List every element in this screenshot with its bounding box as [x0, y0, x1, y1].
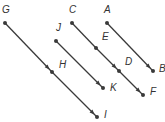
points	[3, 21, 155, 119]
point-j	[54, 39, 58, 43]
point-k	[101, 86, 105, 90]
label-e: E	[102, 31, 109, 42]
point-f	[141, 93, 145, 97]
vector-HI	[52, 72, 97, 117]
label-k: K	[110, 82, 118, 93]
point-b	[151, 69, 155, 73]
point-d	[117, 69, 121, 73]
label-c: C	[69, 4, 77, 15]
point-h	[50, 70, 54, 74]
label-d: D	[125, 56, 132, 67]
label-i: I	[104, 109, 107, 120]
label-j: J	[55, 22, 62, 33]
label-h: H	[59, 59, 67, 70]
point-g	[3, 21, 7, 25]
segments	[5, 23, 153, 117]
vector-GH	[5, 23, 52, 72]
point-c	[70, 21, 74, 25]
point-e	[94, 46, 98, 50]
point-a	[105, 21, 109, 25]
label-f: F	[150, 86, 157, 97]
point-i	[95, 115, 99, 119]
label-b: B	[159, 63, 165, 74]
vector-diagram: ABCEDFJKGHI	[0, 0, 165, 122]
label-a: A	[103, 4, 111, 15]
label-g: G	[2, 4, 10, 15]
vector-CE	[72, 23, 96, 48]
